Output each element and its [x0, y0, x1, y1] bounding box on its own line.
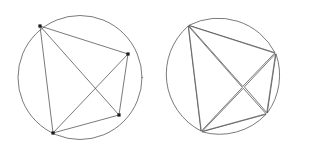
chord-bd	[53, 54, 128, 133]
chord-ab	[40, 26, 128, 54]
vertex-marker-d	[51, 131, 54, 134]
vertex-marker-a	[38, 24, 41, 27]
vertex-marker-b	[126, 52, 129, 55]
assembled-vertex-group	[38, 24, 129, 134]
chord-bc	[119, 54, 128, 115]
chord-ad	[40, 26, 53, 133]
figure-root	[0, 0, 315, 154]
panel-assembled-circle	[18, 16, 142, 140]
vertex-marker-c	[117, 113, 120, 116]
chord-cd	[53, 115, 119, 133]
circle-dissection-figure	[0, 0, 315, 154]
chord-ac	[40, 26, 119, 115]
assembled-circle-outline	[18, 16, 142, 140]
exploded-piece-group	[166, 18, 280, 134]
assembled-chord-group	[40, 26, 128, 133]
panel-exploded-circle	[166, 18, 280, 134]
